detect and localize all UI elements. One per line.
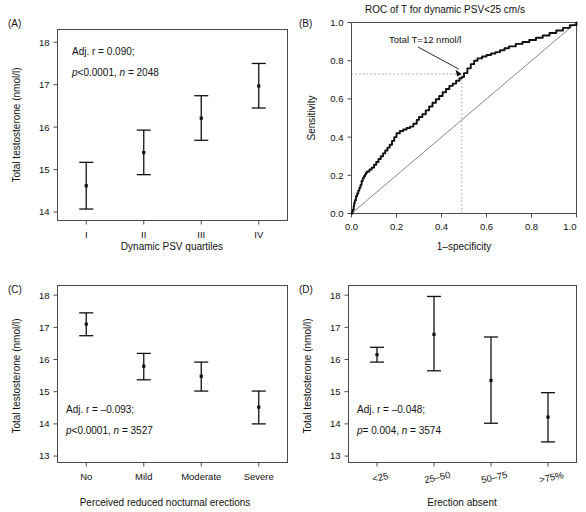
panel-b: ROC of T for dynamic PSV<25 cm/s (B) 0.0… <box>293 0 586 256</box>
error-bar <box>79 313 93 336</box>
panel-c-p-value: <0.0001, <box>72 425 114 436</box>
panel-b-plot: ROC of T for dynamic PSV<25 cm/s (B) 0.0… <box>293 0 586 256</box>
panel-a-x-axis: IIIIIIIV <box>85 221 264 240</box>
panel-a-series <box>79 63 266 209</box>
y-tick-label: 17 <box>39 322 50 333</box>
error-bar <box>541 393 555 442</box>
x-tick-label: 0.4 <box>435 221 448 232</box>
x-tick-label: 0.0 <box>345 221 358 232</box>
data-point-marker <box>489 379 492 382</box>
panel-b-y-axis: 0.00.20.40.60.81.0 <box>330 17 351 219</box>
data-point-marker <box>257 84 260 87</box>
error-bar <box>194 362 208 391</box>
panel-a-stat-r: Adj. r = 0.090; <box>72 46 135 57</box>
data-point-marker <box>546 416 549 419</box>
error-bar <box>484 337 498 423</box>
panel-c-stat-r: Adj. r = –0.093; <box>66 404 134 415</box>
data-point-marker <box>85 184 88 187</box>
panel-d: (D) 131415161718 <2525–5050–75>75% Total… <box>293 256 586 512</box>
panel-c-plot: (C) 131415161718 NoMildModerateSevere To… <box>0 256 293 512</box>
reference-diagonal <box>352 23 577 214</box>
panel-c: (C) 131415161718 NoMildModerateSevere To… <box>0 256 293 512</box>
data-point-marker <box>200 375 203 378</box>
x-tick-label: 0.2 <box>390 221 403 232</box>
y-tick-label: 18 <box>39 290 50 301</box>
x-tick-label: Severe <box>244 471 274 482</box>
y-tick-label: 0.4 <box>330 132 343 143</box>
panel-a-y-axis: 1415161718 <box>39 37 58 218</box>
panel-c-ylabel: Total testosterone (nmol/l) <box>11 318 22 433</box>
panel-b-annotation: Total T=12 nmol/l <box>389 34 461 45</box>
panel-a-xlabel: Dynamic PSV quartiles <box>121 241 223 252</box>
error-bar <box>370 347 384 362</box>
y-tick-label: 17 <box>39 79 50 90</box>
y-tick-label: 15 <box>330 386 341 397</box>
panel-b-xlabel: 1–specificity <box>437 241 491 252</box>
x-tick-label: III <box>197 229 205 240</box>
panel-d-n-value: = 3574 <box>407 425 441 436</box>
panel-c-y-axis: 131415161718 <box>39 290 58 462</box>
y-tick-label: 18 <box>330 290 341 301</box>
x-tick-label: <25 <box>371 470 389 484</box>
y-tick-label: 15 <box>39 164 50 175</box>
panel-c-stat-p: p<0.0001, n = 3527 <box>65 425 153 436</box>
y-tick-label: 13 <box>330 450 341 461</box>
panel-a-frame <box>58 30 288 221</box>
y-tick-label: 14 <box>330 418 341 429</box>
x-tick-label: 0.8 <box>525 221 538 232</box>
x-tick-label: 25–50 <box>423 469 451 485</box>
error-bar <box>137 130 151 175</box>
panel-b-x-axis: 0.00.20.40.60.81.0 <box>345 214 577 232</box>
y-tick-label: 0.6 <box>330 93 343 104</box>
x-tick-label: >75% <box>538 469 565 485</box>
panel-d-y-axis: 131415161718 <box>330 290 349 462</box>
y-tick-label: 0.8 <box>330 55 343 66</box>
panel-a-p-value: <0.0001, <box>78 67 120 78</box>
figure-container: (A) 1415161718 IIIIIIIV Total testostero… <box>0 0 586 512</box>
x-tick-label: II <box>141 229 146 240</box>
panel-a-n-value: = 2048 <box>125 67 159 78</box>
x-tick-label: 0.6 <box>480 221 493 232</box>
panel-d-x-axis: <2525–5050–75>75% <box>371 463 565 486</box>
x-tick-label: 50–75 <box>480 469 508 485</box>
x-tick-label: IV <box>254 229 264 240</box>
error-bar <box>137 353 151 379</box>
y-tick-label: 1.0 <box>330 17 343 28</box>
panel-b-title: ROC of T for dynamic PSV<25 cm/s <box>365 4 525 15</box>
panel-b-roc-curve <box>352 23 577 214</box>
panel-a-ylabel: Total testosterone (nmol/l) <box>11 67 22 182</box>
y-tick-label: 0.0 <box>330 208 343 219</box>
panel-a-tag: (A) <box>8 18 21 29</box>
panel-c-n-value: = 3527 <box>119 425 153 436</box>
panel-d-tag: (D) <box>299 284 313 295</box>
panel-a: (A) 1415161718 IIIIIIIV Total testostero… <box>0 0 293 256</box>
panel-b-tag: (B) <box>299 18 312 29</box>
panel-a-plot: (A) 1415161718 IIIIIIIV Total testostero… <box>0 0 293 256</box>
x-tick-label: Moderate <box>181 471 221 482</box>
data-point-marker <box>142 365 145 368</box>
data-point-marker <box>257 406 260 409</box>
y-tick-label: 18 <box>39 37 50 48</box>
panel-d-stat-p: p= 0.004, n = 3574 <box>356 425 441 436</box>
y-tick-label: 16 <box>330 354 341 365</box>
data-point-marker <box>200 117 203 120</box>
error-bar <box>427 296 441 370</box>
y-tick-label: 13 <box>39 450 50 461</box>
data-point-marker <box>142 151 145 154</box>
panel-d-stat-r: Adj. r = –0.048; <box>357 404 425 415</box>
panel-d-ylabel: Total testosterone (nmol/l) <box>302 318 313 433</box>
annotation-arrow-head <box>456 70 462 77</box>
x-tick-label: Mild <box>135 471 152 482</box>
x-tick-label: 1.0 <box>563 221 576 232</box>
panel-d-plot: (D) 131415161718 <2525–5050–75>75% Total… <box>293 256 586 512</box>
panel-c-xlabel: Perceived reduced nocturnal erections <box>80 497 251 508</box>
data-point-marker <box>432 333 435 336</box>
y-tick-label: 14 <box>39 206 50 217</box>
y-tick-label: 16 <box>39 122 50 133</box>
error-bar <box>252 391 266 424</box>
error-bar <box>194 96 208 141</box>
error-bar <box>252 63 266 108</box>
error-bar <box>79 162 93 209</box>
panel-d-xlabel: Erection absent <box>427 497 497 508</box>
data-point-marker <box>85 323 88 326</box>
